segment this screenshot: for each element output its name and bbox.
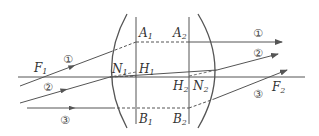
label-B1: B1 — [138, 112, 153, 127]
label-F2: F2 — [271, 80, 285, 95]
label-A2: A2 — [172, 26, 187, 41]
label-H2: H2 — [172, 79, 189, 94]
ray-2-label-right: ② — [253, 47, 263, 60]
diagram-canvas: F1 F2 A1 A2 B1 B2 N1 H1 H2 N2 ① ① ② ② ③ … — [0, 0, 319, 136]
label-H1: H1 — [138, 62, 155, 77]
ray-2-label-left: ② — [43, 81, 53, 94]
label-B2: B2 — [172, 112, 187, 127]
ray-1-label-left: ① — [63, 53, 73, 66]
label-N1: N1 — [111, 62, 128, 77]
label-F1: F1 — [33, 61, 47, 76]
ray-3-label-left: ③ — [60, 114, 70, 127]
ray-3-label-right: ③ — [253, 88, 263, 101]
label-N2: N2 — [192, 79, 209, 94]
ray-3 — [27, 70, 287, 108]
ray-1-label-right: ① — [253, 27, 263, 40]
label-A1: A1 — [138, 26, 153, 41]
thick-lens-diagram: F1 F2 A1 A2 B1 B2 N1 H1 H2 N2 ① ① ② ② ③ … — [0, 0, 319, 136]
ray-1 — [20, 42, 282, 86]
